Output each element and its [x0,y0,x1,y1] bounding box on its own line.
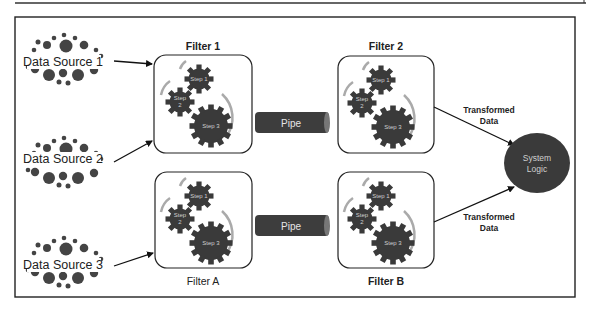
svg-text:Step 3: Step 3 [384,124,402,130]
svg-text:Step 3: Step 3 [202,123,220,129]
svg-text:System: System [523,153,551,163]
filter-title: Filter B [368,275,405,287]
system-logic-node: System Logic [504,133,570,193]
pipe-label: Pipe [281,118,301,129]
output-label-bottom: Transformed [463,212,515,222]
svg-text:Step 3: Step 3 [202,240,220,246]
pipe-filter-diagram: Data Source 1 Data Source 2 Data Source … [0,0,601,325]
svg-text:Step 1: Step 1 [372,193,390,199]
svg-text:Step 1: Step 1 [190,76,208,82]
svg-text:Data: Data [480,116,499,126]
filter-2: Filter 2 Step 1 Step 2 Step 3 [338,40,434,153]
pipe-label: Pipe [281,221,301,232]
filter-title: Filter 2 [369,40,404,52]
svg-text:Logic: Logic [527,164,548,174]
filter-1: Filter 1 Step 1 Step 2 Step 3 [154,40,252,153]
svg-text:Data: Data [480,223,499,233]
data-source-label: Data Source 3 [23,258,103,272]
svg-text:Step: Step [356,212,369,218]
output-label-top: Transformed [463,105,515,115]
svg-text:Step 3: Step 3 [384,240,402,246]
pipe-top: Pipe [255,112,330,133]
pipe-bottom: Pipe [255,215,330,236]
svg-text:Step 1: Step 1 [190,193,208,199]
data-source-label: Data Source 2 [23,152,103,166]
svg-text:Step: Step [174,212,187,218]
data-source-label: Data Source 1 [23,55,103,69]
filter-title: Filter A [187,275,220,287]
svg-text:Step 1: Step 1 [372,77,390,83]
filter-title: Filter 1 [186,40,221,52]
svg-text:Step: Step [356,96,369,102]
svg-text:Step: Step [174,95,187,101]
